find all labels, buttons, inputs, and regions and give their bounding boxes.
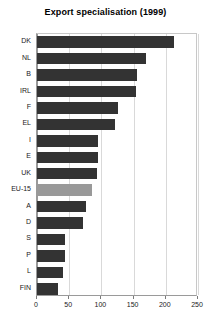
x-tick-0 (36, 296, 37, 299)
category-label-i: I (29, 136, 31, 144)
category-label-nl: NL (22, 54, 31, 62)
bar-row (37, 86, 196, 98)
bar-row (37, 250, 196, 262)
chart-title: Export specialisation (1999) (0, 7, 211, 18)
bar-fin (37, 283, 58, 295)
bar-row (37, 217, 196, 229)
category-label-e: E (26, 152, 31, 160)
bar-d (37, 217, 83, 229)
bar-row (37, 119, 196, 131)
x-tick-100 (100, 296, 101, 299)
bar-f (37, 102, 118, 114)
bar-row (37, 152, 196, 164)
category-label-dk: DK (21, 37, 31, 45)
bar-row (37, 283, 196, 295)
bar-p (37, 250, 65, 262)
bar-row (37, 69, 196, 81)
category-axis-labels: DKNLBIRLFELIEUKEU-15ADSPLFIN (0, 33, 34, 296)
bars-layer (37, 34, 196, 295)
bar-row (37, 267, 196, 279)
x-tick-label-250: 250 (191, 300, 203, 309)
bar-uk (37, 168, 97, 180)
x-tick-label-150: 150 (127, 300, 139, 309)
bar-row (37, 53, 196, 65)
bar-el (37, 119, 115, 131)
x-tick-200 (165, 296, 166, 299)
category-label-el: EL (22, 119, 31, 127)
plot-area (36, 33, 197, 296)
bar-b (37, 69, 137, 81)
bar-s (37, 234, 65, 246)
export-specialisation-chart: Export specialisation (1999) DKNLBIRLFEL… (0, 0, 211, 326)
category-label-irl: IRL (20, 87, 31, 95)
bar-i (37, 135, 98, 147)
x-tick-150 (133, 296, 134, 299)
category-label-p: P (26, 251, 31, 259)
bar-irl (37, 86, 136, 98)
category-label-eu-15: EU-15 (11, 185, 31, 193)
bar-row (37, 201, 196, 213)
bar-a (37, 201, 86, 213)
bar-row (37, 36, 196, 48)
bar-row (37, 184, 196, 196)
category-label-fin: FIN (20, 284, 31, 292)
bar-eu-15 (37, 184, 92, 196)
value-axis-ticks: 050100150200250 (36, 296, 197, 316)
bar-row (37, 102, 196, 114)
x-tick-label-0: 0 (34, 300, 38, 309)
category-label-a: A (26, 202, 31, 210)
bar-e (37, 152, 98, 164)
gridline-250 (198, 34, 199, 295)
x-tick-label-100: 100 (95, 300, 107, 309)
x-tick-50 (68, 296, 69, 299)
bar-nl (37, 53, 146, 65)
category-label-s: S (26, 234, 31, 242)
bar-dk (37, 36, 174, 48)
category-label-f: F (27, 103, 31, 111)
category-label-b: B (26, 70, 31, 78)
bar-l (37, 267, 63, 279)
bar-row (37, 234, 196, 246)
x-tick-label-200: 200 (159, 300, 171, 309)
category-label-uk: UK (21, 169, 31, 177)
bar-row (37, 135, 196, 147)
category-label-l: L (27, 267, 31, 275)
x-tick-250 (197, 296, 198, 299)
category-label-d: D (26, 218, 31, 226)
x-tick-label-50: 50 (64, 300, 72, 309)
bar-row (37, 168, 196, 180)
